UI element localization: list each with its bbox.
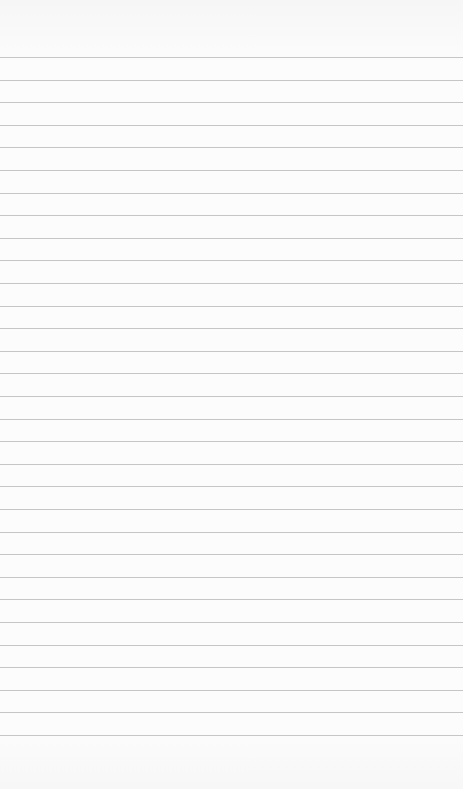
ruled-line [0,215,463,216]
ruled-line [0,306,463,307]
ruled-line [0,599,463,600]
ruled-line [0,170,463,171]
ruled-line [0,690,463,691]
ruled-line [0,645,463,646]
ruled-line [0,147,463,148]
ruled-line [0,486,463,487]
ruled-line [0,238,463,239]
ruled-line [0,622,463,623]
ruled-line [0,735,463,736]
ruled-line [0,464,463,465]
ruled-line [0,328,463,329]
ruled-line [0,57,463,58]
ruled-line [0,532,463,533]
ruled-line [0,193,463,194]
ruled-line [0,419,463,420]
ruled-line [0,80,463,81]
ruled-line [0,351,463,352]
ruled-line [0,509,463,510]
ruled-line [0,102,463,103]
ruled-line [0,283,463,284]
ruled-line [0,373,463,374]
ruled-line [0,554,463,555]
ruled-line [0,260,463,261]
ruled-line [0,125,463,126]
ruled-line [0,396,463,397]
ruled-line [0,667,463,668]
lined-paper-page [0,0,463,789]
ruled-line [0,577,463,578]
ruled-line [0,712,463,713]
ruled-line [0,441,463,442]
